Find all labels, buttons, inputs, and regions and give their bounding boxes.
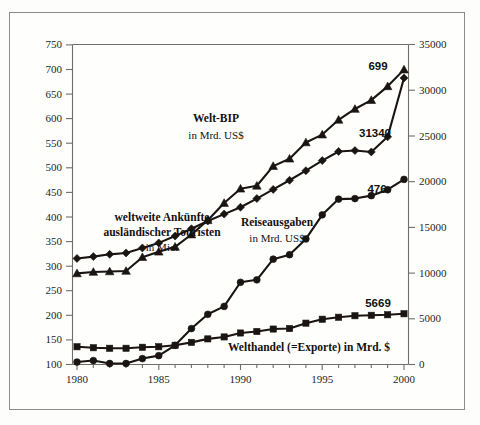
right-tick-label-15000: 15000 xyxy=(419,221,447,233)
left-tick-label-750: 750 xyxy=(46,38,63,50)
left-tick-label-400: 400 xyxy=(46,211,63,223)
left-tick-label-500: 500 xyxy=(46,161,63,173)
ankuenfte-label-line1: weltweite Ankünfte xyxy=(115,211,210,223)
data-point-marker xyxy=(123,345,129,351)
data-point-marker xyxy=(400,65,409,73)
data-point-marker xyxy=(221,303,228,310)
plot-container: 100 150 200 250 300 350 400 450 500 55 xyxy=(0,0,480,425)
right-tick-label-0: 0 xyxy=(419,358,425,370)
data-point-marker xyxy=(286,325,292,331)
data-point-marker xyxy=(286,251,293,258)
data-point-marker xyxy=(204,311,211,318)
reiseausgaben-label: Reiseausgaben xyxy=(241,216,314,229)
data-point-marker xyxy=(253,195,261,203)
x-axis-ticks: 1980 1985 1990 1995 2000 xyxy=(66,365,416,386)
data-point-marker xyxy=(220,210,228,218)
data-point-marker xyxy=(401,311,407,317)
data-point-marker xyxy=(90,357,97,364)
data-point-marker xyxy=(400,74,408,82)
line-chart-svg: 100 150 200 250 300 350 400 450 500 55 xyxy=(0,0,480,425)
data-point-marker xyxy=(156,344,162,350)
left-tick-label-100: 100 xyxy=(46,358,63,370)
value-label-5669: 5669 xyxy=(365,297,391,309)
data-point-marker xyxy=(139,355,146,362)
data-point-marker xyxy=(74,359,81,366)
data-point-marker xyxy=(336,314,342,320)
left-tick-label-600: 600 xyxy=(46,112,63,124)
series-2 xyxy=(73,65,409,276)
ankuenfte-label-line2: ausländischer Touristen xyxy=(103,226,221,238)
reiseausgaben-sublabel: in Mrd. US$ xyxy=(249,232,305,244)
data-point-marker xyxy=(352,313,358,319)
left-tick-label-300: 300 xyxy=(46,260,63,272)
left-tick-label-450: 450 xyxy=(46,186,63,198)
left-axis-ticks: 100 150 200 250 300 350 400 450 500 55 xyxy=(46,38,73,370)
data-point-marker xyxy=(89,253,97,261)
data-point-marker xyxy=(270,256,277,263)
value-label-699: 699 xyxy=(368,60,387,72)
right-tick-label-35000: 35000 xyxy=(419,38,447,50)
data-point-marker xyxy=(401,176,408,183)
data-point-marker xyxy=(237,330,243,336)
data-point-marker xyxy=(237,203,245,211)
left-tick-label-250: 250 xyxy=(46,284,63,296)
value-label-476: 476 xyxy=(367,183,386,195)
data-point-marker xyxy=(270,326,276,332)
data-point-marker xyxy=(335,147,343,155)
data-point-marker xyxy=(139,344,145,350)
data-point-marker xyxy=(122,249,130,257)
data-point-marker xyxy=(237,279,244,286)
left-tick-label-200: 200 xyxy=(46,309,63,321)
data-point-marker xyxy=(172,342,178,348)
chart-figure: 100 150 200 250 300 350 400 450 500 55 xyxy=(0,0,480,425)
data-point-marker xyxy=(254,328,260,334)
data-point-marker xyxy=(107,345,113,351)
data-point-marker xyxy=(253,276,260,283)
right-tick-label-5000: 5000 xyxy=(419,312,442,324)
data-point-marker xyxy=(221,334,227,340)
welt-bip-label: Welt-BIP xyxy=(193,112,239,124)
series-line-path xyxy=(77,70,404,274)
data-point-marker xyxy=(90,345,96,351)
right-tick-label-10000: 10000 xyxy=(419,267,447,279)
data-point-marker xyxy=(188,325,195,332)
data-point-marker xyxy=(352,195,359,202)
value-label-31340: 31340 xyxy=(359,127,391,139)
right-axis-ticks: 0 5000 10000 15000 20000 25000 30000 350… xyxy=(409,38,448,370)
left-tick-label-550: 550 xyxy=(46,137,63,149)
data-point-marker xyxy=(155,352,162,359)
left-tick-label-700: 700 xyxy=(46,63,63,75)
welthandel-label: Welthandel (=Exporte) in Mrd. $ xyxy=(228,341,390,354)
right-tick-label-20000: 20000 xyxy=(419,175,447,187)
x-tick-label-1985: 1985 xyxy=(148,373,171,385)
welt-bip-sublabel: in Mrd. US$ xyxy=(188,129,244,141)
x-tick-label-1995: 1995 xyxy=(311,373,334,385)
right-tick-label-30000: 30000 xyxy=(419,84,447,96)
series-annotations: Welt-BIP in Mrd. US$ weltweite Ankünfte … xyxy=(103,60,391,354)
data-point-marker xyxy=(319,316,325,322)
left-tick-label-350: 350 xyxy=(46,235,63,247)
data-point-marker xyxy=(106,250,114,258)
data-point-marker xyxy=(74,344,80,350)
data-point-marker xyxy=(351,147,359,155)
x-tick-label-1980: 1980 xyxy=(66,373,89,385)
data-point-marker xyxy=(188,339,194,345)
data-point-marker xyxy=(123,360,130,367)
data-point-marker xyxy=(335,196,342,203)
data-point-marker xyxy=(368,312,374,318)
data-point-marker xyxy=(205,336,211,342)
ankuenfte-sublabel: in Mio. xyxy=(146,241,179,253)
x-tick-label-2000: 2000 xyxy=(393,373,416,385)
data-point-marker xyxy=(303,320,309,326)
x-tick-label-1990: 1990 xyxy=(230,373,253,385)
data-point-marker xyxy=(269,185,277,193)
right-tick-label-25000: 25000 xyxy=(419,130,447,142)
data-point-marker xyxy=(385,312,391,318)
left-tick-label-150: 150 xyxy=(46,333,63,345)
data-point-marker xyxy=(73,254,81,262)
data-point-marker xyxy=(319,211,326,218)
data-point-marker xyxy=(106,360,113,367)
left-tick-label-650: 650 xyxy=(46,88,63,100)
